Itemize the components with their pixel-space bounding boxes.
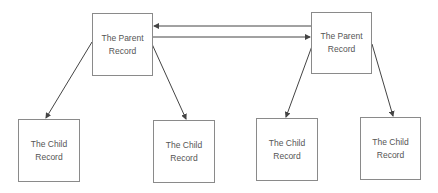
parent-record-right: The ParentRecord xyxy=(311,12,372,74)
node-label-line2: Record xyxy=(31,151,67,164)
edge-parent-right-to-child-3 xyxy=(286,46,312,117)
child-record-4: The ChildRecord xyxy=(360,117,421,180)
edge-parent-left-to-child-2 xyxy=(152,44,186,119)
node-label-line1: The Child xyxy=(269,137,305,150)
child-record-2: The ChildRecord xyxy=(153,120,215,183)
node-label-line1: The Child xyxy=(31,138,67,151)
edge-parent-right-to-child-4 xyxy=(372,44,393,116)
node-label-line1: The Child xyxy=(166,139,202,152)
node-label-line1: The Parent xyxy=(101,32,143,45)
child-record-1: The ChildRecord xyxy=(18,119,80,182)
parent-record-left: The ParentRecord xyxy=(92,13,153,76)
diagram-canvas: The ParentRecord The ParentRecord The Ch… xyxy=(0,0,438,193)
child-record-3: The ChildRecord xyxy=(256,118,318,181)
node-label-line2: Record xyxy=(269,150,305,163)
edge-parent-left-to-child-1 xyxy=(46,42,92,118)
node-label-line2: Record xyxy=(101,45,143,58)
node-label-line1: The Child xyxy=(372,136,408,149)
node-label-line2: Record xyxy=(320,43,362,56)
node-label-line1: The Parent xyxy=(320,30,362,43)
node-label-line2: Record xyxy=(166,152,202,165)
node-label-line2: Record xyxy=(372,149,408,162)
